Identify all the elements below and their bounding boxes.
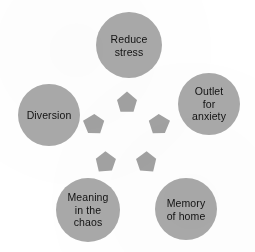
node-memory-of-home — [155, 178, 217, 240]
node-diversion — [18, 84, 80, 146]
arrow-layer — [80, 92, 173, 178]
arrow-lower-left-icon — [91, 149, 119, 177]
diagram-canvas — [0, 0, 255, 252]
node-outlet-for-anxiety — [178, 73, 240, 135]
arrow-upper-right-icon — [148, 111, 173, 136]
cycle-diagram: Reduce stressOutlet for anxietyMemory of… — [0, 0, 255, 252]
node-reduce-stress — [96, 12, 162, 78]
arrow-lower-right-icon — [133, 149, 161, 177]
node-circle-layer — [18, 12, 240, 242]
node-meaning-in-the-chaos — [56, 178, 120, 242]
arrow-upper-left-icon — [80, 111, 105, 136]
arrow-up-icon — [117, 92, 137, 112]
